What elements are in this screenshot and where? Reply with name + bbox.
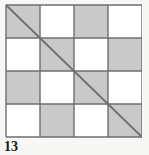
grid-cell — [40, 71, 74, 104]
grid-cell — [40, 104, 74, 137]
checkerboard-svg — [5, 4, 142, 138]
figure-container: 13 — [0, 0, 149, 155]
figure-caption: 13 — [4, 139, 18, 154]
grid-cell — [74, 38, 108, 71]
grid-cell — [40, 5, 74, 38]
grid-cell — [6, 71, 40, 104]
checkerboard-grid — [5, 4, 142, 138]
grid-cell — [108, 38, 142, 71]
grid-cell — [6, 104, 40, 137]
grid-cell — [74, 5, 108, 38]
grid-cell — [108, 71, 142, 104]
grid-cell — [6, 38, 40, 71]
grid-cell — [74, 104, 108, 137]
grid-cell — [108, 5, 142, 38]
